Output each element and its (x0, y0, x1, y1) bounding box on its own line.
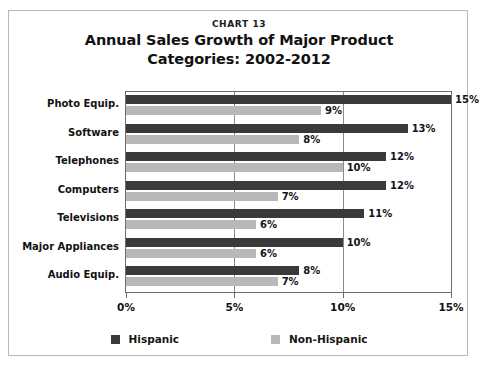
chart-category-row: Photo Equip.15%9% (126, 92, 451, 121)
bar-value-label: 7% (282, 192, 299, 201)
bar-value-label: 6% (260, 220, 277, 229)
legend-swatch-icon (271, 335, 280, 344)
x-axis-tick-mark (451, 292, 452, 298)
x-axis-tick-label: 0% (117, 301, 135, 313)
bar-hispanic: 13% (126, 124, 408, 133)
bar-non-hispanic: 6% (126, 220, 256, 229)
legend-item-hispanic[interactable]: Hispanic (111, 333, 180, 345)
chart-category-row: Audio Equip.8%7% (126, 263, 451, 292)
chart-category-row: Telephones12%10% (126, 149, 451, 178)
legend-item-non-hispanic[interactable]: Non-Hispanic (271, 333, 367, 345)
category-axis-label: Televisions (0, 212, 119, 223)
bar-non-hispanic: 10% (126, 163, 343, 172)
chart-title-line-1: Annual Sales Growth of Major Product (9, 31, 469, 50)
bar-non-hispanic: 6% (126, 249, 256, 258)
x-axis-tick-mark (234, 292, 235, 298)
bar-hispanic: 15% (126, 95, 451, 104)
bar-value-label: 15% (455, 95, 479, 104)
plot-area: Photo Equip.15%9%Software13%8%Telephones… (125, 91, 452, 293)
bar-non-hispanic: 7% (126, 277, 278, 286)
bar-hispanic: 10% (126, 238, 343, 247)
chart-number-label: CHART 13 (9, 17, 469, 31)
bar-value-label: 9% (325, 106, 342, 115)
category-axis-label: Photo Equip. (0, 98, 119, 109)
bar-hispanic: 12% (126, 152, 386, 161)
bar-hispanic: 8% (126, 266, 299, 275)
bar-value-label: 6% (260, 249, 277, 258)
category-axis-label: Audio Equip. (0, 269, 119, 280)
category-axis-label: Computers (0, 184, 119, 195)
x-axis-tick-mark (126, 292, 127, 298)
legend-label: Hispanic (129, 333, 180, 345)
bar-value-label: 10% (347, 238, 371, 247)
chart-category-row: Software13%8% (126, 121, 451, 150)
bar-value-label: 12% (390, 152, 414, 161)
chart-category-row: Major Appliances10%6% (126, 235, 451, 264)
bar-value-label: 8% (303, 266, 320, 275)
chart-legend: HispanicNon-Hispanic (9, 333, 469, 345)
chart-category-row: Televisions11%6% (126, 206, 451, 235)
bar-value-label: 11% (368, 209, 392, 218)
x-axis-tick-label: 15% (438, 301, 463, 313)
x-axis-tick-label: 5% (225, 301, 243, 313)
bar-non-hispanic: 9% (126, 106, 321, 115)
bar-value-label: 10% (347, 163, 371, 172)
bar-hispanic: 12% (126, 181, 386, 190)
category-axis-label: Telephones (0, 155, 119, 166)
chart-category-row: Computers12%7% (126, 178, 451, 207)
x-axis-tick-mark (343, 292, 344, 298)
chart-title-block: CHART 13 Annual Sales Growth of Major Pr… (9, 17, 469, 69)
bar-value-label: 8% (303, 135, 320, 144)
chart-title-line-2: Categories: 2002-2012 (9, 50, 469, 69)
x-axis-tick-label: 10% (330, 301, 355, 313)
bar-non-hispanic: 8% (126, 135, 299, 144)
bar-value-label: 7% (282, 277, 299, 286)
legend-label: Non-Hispanic (289, 333, 367, 345)
bar-non-hispanic: 7% (126, 192, 278, 201)
bar-hispanic: 11% (126, 209, 364, 218)
bar-value-label: 12% (390, 181, 414, 190)
chart-frame: CHART 13 Annual Sales Growth of Major Pr… (8, 10, 468, 356)
legend-swatch-icon (111, 335, 120, 344)
category-axis-label: Software (0, 127, 119, 138)
category-axis-label: Major Appliances (0, 241, 119, 252)
bar-value-label: 13% (412, 124, 436, 133)
